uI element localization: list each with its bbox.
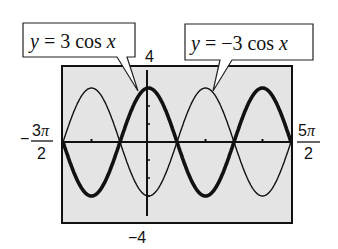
xmin-label: − 3π 2 <box>20 122 53 162</box>
ymin-label: −4 <box>128 229 146 246</box>
callout-right-y: y <box>189 32 200 55</box>
svg-text:y = −3 cos x: y = −3 cos x <box>189 32 288 55</box>
callout-left-x: x <box>106 30 116 52</box>
svg-text:5π: 5π <box>298 122 316 139</box>
xmax-numerator: 5 <box>298 122 307 139</box>
pi-symbol: π <box>41 122 50 139</box>
xmax-denominator: 2 <box>304 145 313 162</box>
callout-right-x: x <box>278 32 288 54</box>
xmin-numerator: 3 <box>32 122 41 139</box>
svg-text:3π: 3π <box>32 122 50 139</box>
ymax-label: 4 <box>145 48 154 65</box>
callout-right-eq: = −3 cos <box>200 32 279 54</box>
pi-symbol: π <box>307 122 316 139</box>
xmin-sign: − <box>20 130 29 147</box>
graph-figure: y = 3 cos x y = −3 cos x 4 −4 − 3π 2 5π … <box>0 0 338 249</box>
xmax-label: 5π 2 <box>297 122 320 162</box>
svg-text:y = 3 cos x: y = 3 cos x <box>28 30 116 53</box>
callout-left-eq: = 3 cos <box>39 30 107 52</box>
xmin-denominator: 2 <box>37 145 46 162</box>
callout-left-y: y <box>28 30 39 53</box>
